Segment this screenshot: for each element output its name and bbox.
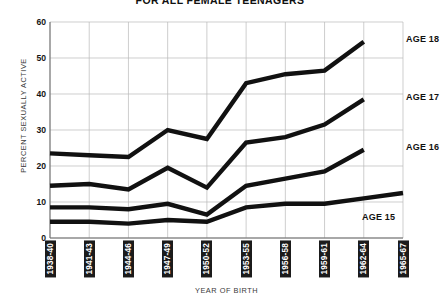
y-tick-label: 30 bbox=[22, 126, 46, 135]
x-tick-label: 1959-61 bbox=[319, 240, 330, 277]
series-label-age-18: AGE 18 bbox=[406, 34, 439, 44]
plot-area bbox=[50, 22, 403, 238]
y-tick-label: 60 bbox=[22, 18, 46, 27]
x-tick-label: 1947-49 bbox=[162, 240, 173, 277]
chart-svg bbox=[50, 22, 403, 238]
x-tick-label: 1953-55 bbox=[241, 240, 252, 277]
x-tick-label: 1962-64 bbox=[358, 240, 369, 277]
chart-figure: FOR ALL FEMALE TEENAGERS PERCENT SEXUALL… bbox=[0, 0, 440, 305]
y-tick-label: 10 bbox=[22, 198, 46, 207]
y-tick-label: 20 bbox=[22, 162, 46, 171]
x-axis-tick-labels: 1938-401941-431944-461947-491950-521953-… bbox=[50, 240, 410, 286]
x-tick-label: 1950-52 bbox=[201, 240, 212, 277]
y-tick-label: 50 bbox=[22, 54, 46, 63]
y-axis-tick-labels: 0102030405060 bbox=[18, 22, 46, 238]
x-tick-label: 1956-58 bbox=[280, 240, 291, 277]
series-label-age-15: AGE 15 bbox=[362, 212, 395, 222]
y-tick-label: 0 bbox=[22, 234, 46, 243]
x-axis-title: YEAR OF BIRTH bbox=[50, 286, 403, 295]
chart-title: FOR ALL FEMALE TEENAGERS bbox=[0, 0, 440, 6]
x-tick-label: 1965-67 bbox=[398, 240, 409, 277]
series-label-age-17: AGE 17 bbox=[406, 92, 439, 102]
x-tick-label: 1941-43 bbox=[84, 240, 95, 277]
y-tick-label: 40 bbox=[22, 90, 46, 99]
x-tick-label: 1938-40 bbox=[45, 240, 56, 277]
series-label-age-16: AGE 16 bbox=[406, 142, 439, 152]
x-tick-label: 1944-46 bbox=[123, 240, 134, 277]
data-series bbox=[50, 42, 403, 224]
